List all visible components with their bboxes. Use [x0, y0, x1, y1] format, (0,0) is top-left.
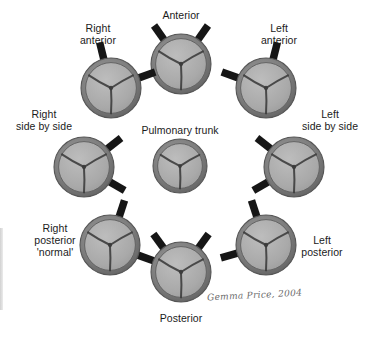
valve-right-side-by-side [54, 137, 125, 197]
valve-coaptation-point [109, 86, 113, 90]
valve-coaptation-point [179, 62, 183, 66]
valve-coaptation-point [292, 165, 296, 169]
valve-left-side-by-side [253, 137, 324, 197]
valve-coaptation-point [178, 164, 182, 168]
label-right-side-by-side: Right side by side [0, 108, 104, 132]
valve-anterior [151, 25, 211, 94]
valve-coaptation-point [179, 270, 183, 274]
coronary-position-diagram [0, 0, 366, 337]
valve-left-anterior [222, 42, 296, 118]
label-right-anterior: Right anterior [38, 22, 158, 46]
label-left-anterior: Left anterior [219, 22, 339, 46]
label-right-posterior-normal: Right posterior 'normal' [0, 222, 115, 259]
valve-coaptation-point [82, 165, 86, 169]
valve-coaptation-point [264, 86, 268, 90]
label-anterior: Anterior [121, 9, 241, 21]
label-posterior: Posterior [121, 312, 241, 324]
valve-right-anterior [81, 42, 155, 118]
valve-pulmonary-trunk [153, 139, 207, 193]
label-pulmonary-trunk: Pulmonary trunk [120, 124, 240, 136]
label-left-side-by-side: Left side by side [270, 108, 366, 132]
label-left-posterior: Left posterior [262, 234, 366, 258]
valve-posterior [151, 234, 211, 302]
